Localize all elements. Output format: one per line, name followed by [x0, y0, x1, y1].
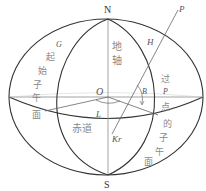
- label-l: L: [95, 109, 101, 119]
- label-north: N: [104, 4, 111, 15]
- o-to-p-meridian-line: [108, 97, 158, 115]
- label-prime-meridian-1: 起: [46, 52, 55, 62]
- label-h: H: [146, 37, 154, 47]
- label-earth-axis-1: 地: [112, 40, 122, 52]
- label-p-small: P: [162, 87, 168, 96]
- label-kr: Kr: [111, 134, 122, 144]
- label-prime-meridian-3: 子: [33, 80, 42, 90]
- label-south: S: [104, 179, 110, 190]
- label-prime-meridian-5: 面: [32, 110, 41, 120]
- label-p-meridian-4: 子: [159, 133, 168, 143]
- label-equator: 赤道: [72, 122, 92, 134]
- label-point-p: P: [178, 4, 185, 14]
- label-p-meridian-2: 点: [161, 102, 170, 112]
- label-p-meridian-1: 过: [161, 73, 170, 84]
- label-prime-meridian-2: 始: [38, 65, 47, 76]
- label-g: G: [56, 40, 62, 49]
- label-p-meridian-3: 的: [163, 118, 172, 129]
- label-p-meridian-6: 面: [144, 157, 153, 167]
- geodetic-coordinate-diagram: N S O P G H B P L Kr 地 轴 起 始 子 午 面 赤道 过 …: [0, 0, 206, 191]
- label-prime-meridian-4: 午: [32, 92, 41, 103]
- label-center-o: O: [96, 86, 103, 97]
- label-b: B: [142, 87, 147, 96]
- label-p-meridian-5: 午: [155, 146, 164, 157]
- label-earth-axis-2: 轴: [112, 54, 122, 66]
